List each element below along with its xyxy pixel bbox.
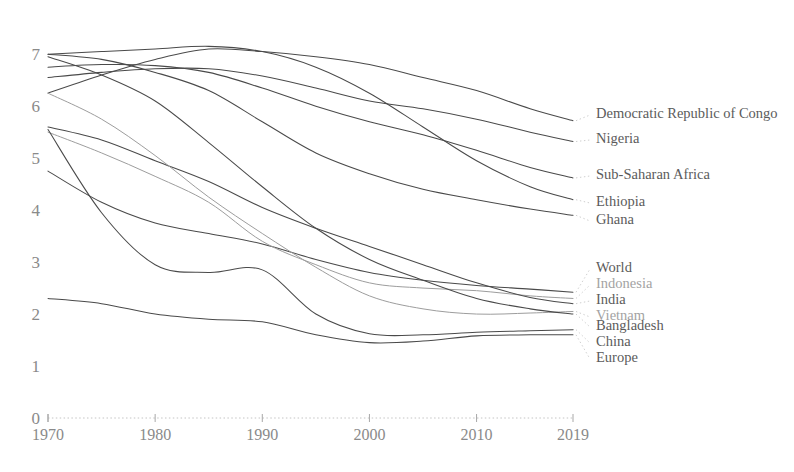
x-axis-tick-label: 2019 (557, 426, 589, 443)
series-label: Indonesia (596, 275, 653, 291)
series-label: China (596, 333, 631, 349)
y-axis-tick-label: 2 (32, 305, 41, 324)
series-lines (48, 46, 573, 343)
series-label: Ghana (596, 211, 634, 227)
series-line (48, 298, 573, 343)
y-axis-tick-label: 3 (32, 253, 41, 272)
series-line (48, 49, 573, 121)
series-leader-line (576, 115, 590, 121)
x-axis-tick-label: 1980 (139, 426, 171, 443)
y-axis-tick-label: 6 (32, 97, 41, 116)
y-axis-tick-label: 5 (32, 149, 41, 168)
x-axis-tick-label: 1970 (32, 426, 64, 443)
series-leader-line (576, 285, 590, 298)
y-axis-tick-label: 7 (32, 45, 41, 64)
x-axis-tick-label: 2010 (461, 426, 493, 443)
series-line (48, 54, 573, 215)
series-label: Ethiopia (596, 193, 646, 209)
series-line (48, 130, 573, 336)
series-leader-line (576, 335, 590, 359)
series-leader-line (576, 200, 590, 203)
series-leader-line (576, 301, 590, 304)
series-leader-lines (576, 115, 590, 359)
series-label: World (596, 259, 633, 275)
series-line (48, 132, 573, 298)
fertility-rate-line-chart: 01234567 197019801990200020102019 Democr… (0, 0, 794, 472)
series-labels: Democratic Republic of CongoNigeriaSub-S… (596, 105, 778, 365)
series-line (48, 64, 573, 177)
series-line (48, 171, 573, 292)
series-line (48, 57, 573, 314)
series-label: Europe (596, 349, 638, 365)
series-leader-line (576, 330, 590, 343)
series-label: Bangladesh (596, 317, 664, 333)
y-axis-tick-labels: 01234567 (32, 45, 41, 428)
series-label: India (596, 291, 626, 307)
x-axis-tick-labels: 197019801990200020102019 (32, 426, 589, 443)
x-axis-tick-label: 1990 (246, 426, 278, 443)
series-leader-line (576, 269, 590, 292)
x-axis-tick-label: 2000 (353, 426, 385, 443)
series-label: Nigeria (596, 130, 640, 146)
y-axis-tick-label: 1 (32, 357, 41, 376)
series-label: Sub-Saharan Africa (596, 166, 711, 182)
series-leader-line (576, 140, 590, 142)
chart-svg: 01234567 197019801990200020102019 Democr… (0, 0, 794, 472)
series-leader-line (576, 176, 590, 178)
y-axis-tick-label: 4 (32, 201, 41, 220)
series-leader-line (576, 311, 590, 317)
series-line (48, 127, 573, 304)
series-line (48, 93, 573, 314)
series-label: Democratic Republic of Congo (596, 105, 778, 121)
series-leader-line (576, 215, 590, 221)
x-axis (48, 414, 573, 422)
